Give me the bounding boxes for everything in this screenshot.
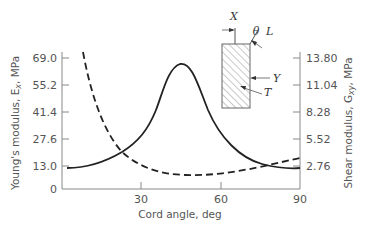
y-left-tick-69: 69.0 [33,52,58,65]
inset-l-label: L [265,25,273,38]
y-left-tick-41: 41.4 [33,106,58,119]
x-tick-labels: 30 60 90 [134,193,307,206]
right-tick-labels: 13.80 11.04 8.28 5.52 2.76 [306,52,338,173]
x-tick-90: 90 [293,193,307,206]
axes [62,52,300,189]
x-axis-title: Cord angle, deg [138,208,222,220]
x-tick-60: 60 [214,193,228,206]
y-right-axis-title: Shear modulus, Gxy, MPa [342,57,356,188]
y-right-tick-2-76: 2.76 [306,160,331,173]
y-arrow-icon [250,76,256,80]
y-left-tick-27: 27.6 [33,133,58,146]
inset-diagram: X θ L Y T [222,10,282,108]
inset-t-label: T [264,86,273,99]
x-arrow-icon [229,28,235,32]
y-left-axis-title: Young's modulus, Ex, MPa [9,56,23,191]
chart: 69.0 55.2 41.4 27.6 13.0 0 13.80 11.04 8… [0,0,366,226]
left-ticks [62,58,69,166]
x-ticks [141,182,221,189]
y-right-tick-11-04: 11.04 [306,79,338,92]
y-right-tick-5-52: 5.52 [306,133,331,146]
right-ticks [293,58,300,166]
y-right-tick-13-80: 13.80 [306,52,338,65]
y-right-tick-8-28: 8.28 [306,106,331,119]
left-tick-labels: 69.0 55.2 41.4 27.6 13.0 0 [33,52,58,196]
inset-theta-label: θ [253,25,260,38]
y-left-tick-0: 0 [50,183,57,196]
series-youngs-modulus [67,64,300,168]
y-left-tick-55: 55.2 [33,79,58,92]
inset-y-label: Y [273,72,282,85]
l-arrow-icon [251,40,257,46]
inset-x-label: X [229,10,239,23]
x-tick-30: 30 [134,193,148,206]
cord-specimen [222,44,250,108]
y-left-tick-13: 13.0 [33,160,58,173]
